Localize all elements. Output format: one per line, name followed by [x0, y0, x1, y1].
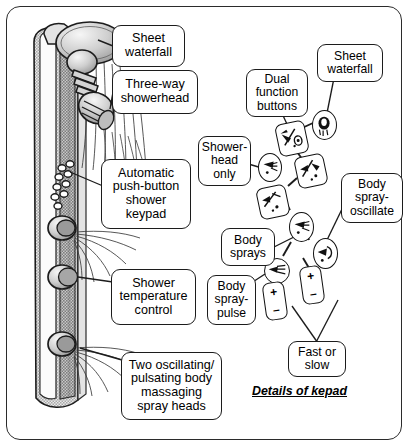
waterfall-icon: [313, 111, 336, 139]
button-showerhead-only[interactable]: [258, 153, 282, 182]
callout-text: Shower temperature control: [120, 277, 188, 318]
dual-function-icon: [275, 120, 309, 156]
callout-text: Sheet waterfall: [327, 50, 372, 76]
callout-sheet-waterfall-left: Sheet waterfall: [112, 25, 185, 67]
oscillating-spray-head-upper: [48, 216, 76, 240]
callout-text: Shower- head only: [202, 141, 247, 181]
plus-minus-icon: + –: [300, 266, 325, 304]
rocker-minus: –: [272, 304, 280, 317]
showerhead-icon: [259, 154, 281, 181]
button-body-sprays[interactable]: [289, 212, 314, 242]
callout-showerhead-only: Shower- head only: [198, 136, 251, 186]
oscillate-icon: [314, 239, 337, 268]
callout-text: Three-way showerhead: [121, 78, 190, 105]
callout-fast-or-slow: Fast or slow: [288, 341, 346, 377]
button-body-spray-oscillate[interactable]: [313, 238, 338, 269]
callout-sheet-waterfall-right: Sheet waterfall: [317, 44, 383, 82]
callout-text: Dual function buttons: [256, 73, 299, 113]
callout-text: Body sprays: [230, 234, 266, 260]
callout-body-massaging-spray-heads: Two oscillating/ pulsating body massagin…: [121, 352, 222, 420]
rocker-plus: +: [306, 270, 315, 283]
spray-cross-icon: [256, 184, 290, 219]
button-dual-function-a[interactable]: [274, 119, 310, 158]
oscillating-spray-head-lower: [48, 332, 76, 356]
button-sheet-waterfall[interactable]: [312, 110, 337, 140]
body-spray-icon: [290, 213, 313, 241]
figure-caption: Details of kepad: [252, 384, 347, 398]
callout-text: Fast or slow: [298, 346, 336, 372]
dual-function-icon-2: [294, 153, 328, 188]
button-spray-cross[interactable]: [255, 183, 291, 221]
callout-text: Body spray- oscillate: [350, 178, 394, 218]
callout-shower-temperature-control: Shower temperature control: [111, 269, 196, 325]
callout-text: Body spray- pulse: [215, 280, 249, 320]
figure-canvas: + – + – Sheet waterfall Three-way shower…: [0, 0, 409, 447]
callout-body-spray-oscillate: Body spray- oscillate: [341, 173, 403, 223]
rocker-plus: +: [269, 286, 278, 299]
callout-body-spray-pulse: Body spray- pulse: [207, 275, 256, 325]
temperature-control-knob: [48, 265, 78, 289]
callout-body-sprays: Body sprays: [221, 228, 275, 266]
callout-text: Automatic push-button shower keypad: [113, 167, 180, 221]
callout-three-way-showerhead: Three-way showerhead: [112, 70, 198, 114]
callout-text: Sheet waterfall: [125, 32, 172, 59]
button-dual-function-b[interactable]: [293, 152, 329, 190]
callout-automatic-keypad: Automatic push-button shower keypad: [101, 159, 191, 229]
rocker-minus: –: [309, 288, 317, 301]
callout-text: Two oscillating/ pulsating body massagin…: [129, 359, 214, 413]
plus-minus-icon: + –: [263, 282, 288, 320]
callout-dual-function-buttons: Dual function buttons: [246, 69, 308, 117]
